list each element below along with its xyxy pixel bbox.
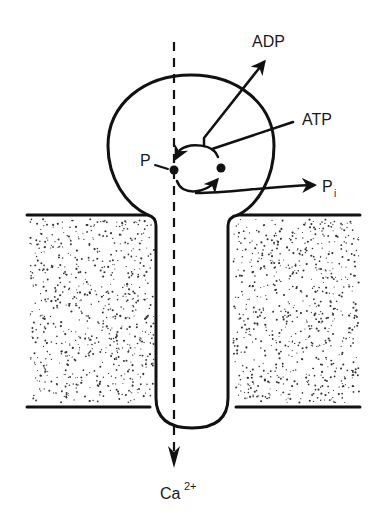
stipple-dot [132,379,133,380]
stipple-dot [279,230,281,232]
stipple-dot [238,384,239,385]
stipple-dot [61,350,63,352]
stipple-dot [139,249,141,251]
stipple-dot [112,316,114,318]
stipple-dot [233,353,235,355]
stipple-dot [124,284,125,285]
stipple-dot [280,351,282,353]
stipple-dot [274,370,275,371]
stipple-dot [350,223,351,224]
stipple-dot [42,218,44,220]
stipple-dot [35,377,36,378]
stipple-dot [78,236,79,237]
stipple-dot [84,395,86,397]
stipple-dot [299,342,301,344]
stipple-dot [251,374,253,376]
stipple-dot [103,308,104,309]
stipple-dot [292,341,293,342]
stipple-dot [320,318,322,320]
stipple-dot [75,268,77,270]
stipple-dot [263,265,265,267]
stipple-dot [33,321,35,323]
stipple-dot [76,383,78,385]
stipple-dot [350,345,352,347]
stipple-dot [35,239,37,241]
stipple-dot [305,222,306,223]
stipple-dot [43,225,44,226]
stipple-dot [265,326,266,327]
stipple-dot [55,300,57,302]
stipple-dot [249,299,250,300]
stipple-dot [249,232,250,233]
stipple-dot [117,343,119,345]
stipple-dot [152,296,154,298]
stipple-dot [62,221,63,222]
stipple-dot [98,234,100,236]
stipple-dot [276,390,277,391]
stipple-dot [44,326,46,328]
stipple-dot [47,298,49,300]
stipple-dot [123,308,124,309]
stipple-dot [103,320,105,322]
stipple-dot [279,253,280,254]
stipple-dot [33,284,34,285]
stipple-dot [30,271,31,272]
stipple-dot [269,382,270,383]
stipple-dot [356,316,358,318]
stipple-dot [251,377,253,379]
stipple-dot [311,312,312,313]
stipple-dot [110,284,111,285]
stipple-dot [305,339,306,340]
stipple-dot [313,238,314,239]
stipple-dot [327,235,329,237]
stipple-dot [30,275,32,277]
stipple-dot [342,314,343,315]
stipple-dot [128,254,130,256]
stipple-dot [88,353,89,354]
stipple-dot [45,290,47,292]
stipple-dot [134,353,135,354]
stipple-dot [288,354,289,355]
stipple-dot [329,241,331,243]
stipple-dot [333,390,334,391]
stipple-dot [56,336,58,338]
stipple-dot [308,337,309,338]
stipple-dot [257,260,259,262]
stipple-dot [46,342,47,343]
stipple-dot [276,292,278,294]
stipple-dot [57,247,58,248]
stipple-dot [145,331,146,332]
stipple-dot [72,220,74,222]
stipple-dot [88,337,90,339]
stipple-dot [322,377,324,379]
stipple-dot [56,343,58,345]
stipple-dot [110,390,111,391]
stipple-dot [259,376,260,377]
stipple-dot [321,221,323,223]
stipple-dot [270,370,272,372]
stipple-dot [325,287,327,289]
stipple-dot [87,344,88,345]
stipple-dot [275,266,277,268]
stipple-dot [122,383,123,384]
stipple-dot [88,317,90,319]
stipple-dot [325,340,327,342]
stipple-dot [47,371,48,372]
stipple-dot [127,228,129,230]
stipple-dot [146,318,147,319]
stipple-dot [331,398,332,399]
stipple-dot [317,330,319,332]
stipple-dot [251,240,252,241]
stipple-dot [89,291,91,293]
stipple-dot [147,255,149,257]
stipple-dot [99,381,101,383]
stipple-dot [297,270,299,272]
stipple-dot [121,325,122,326]
stipple-dot [356,250,358,252]
stipple-dot [328,337,330,339]
stipple-dot [241,352,242,353]
stipple-dot [117,391,119,393]
stipple-dot [286,321,288,323]
stipple-dot [254,275,256,277]
stipple-dot [317,389,319,391]
